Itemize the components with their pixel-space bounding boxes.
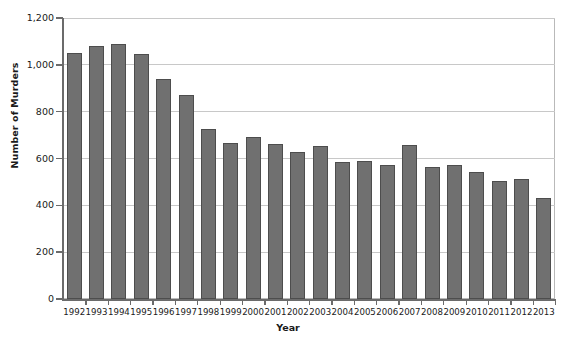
bar (67, 53, 82, 299)
x-axis-tick (555, 300, 556, 305)
x-axis-tick (309, 300, 310, 305)
x-axis-tick (242, 300, 243, 305)
bar (536, 198, 551, 299)
x-axis-tick (264, 300, 265, 305)
bar (156, 79, 171, 299)
x-axis-tick (130, 300, 131, 305)
x-axis-tick (287, 300, 288, 305)
x-axis-tick (331, 300, 332, 305)
x-axis-tick (376, 300, 377, 305)
bar (514, 179, 529, 299)
bar (111, 44, 126, 299)
bar (89, 46, 104, 299)
x-axis-tick (398, 300, 399, 305)
bar-series (0, 0, 576, 341)
bar (290, 152, 305, 299)
bar (335, 162, 350, 299)
x-axis-tick (533, 300, 534, 305)
bar (357, 161, 372, 299)
x-axis-tick (108, 300, 109, 305)
bar (447, 165, 462, 299)
bar (313, 146, 328, 299)
bar (179, 95, 194, 299)
bar (201, 129, 216, 299)
bar (492, 181, 507, 299)
x-axis-tick (443, 300, 444, 305)
bar (425, 167, 440, 299)
x-axis-tick (175, 300, 176, 305)
x-axis-tick (466, 300, 467, 305)
x-axis-tick (152, 300, 153, 305)
x-axis-tick-label: 2013 (529, 307, 559, 317)
x-axis-tick (421, 300, 422, 305)
x-axis-tick (488, 300, 489, 305)
x-axis-tick (85, 300, 86, 305)
bar (469, 172, 484, 299)
x-axis-tick (354, 300, 355, 305)
x-axis-tick (197, 300, 198, 305)
bar (402, 145, 417, 299)
bar (268, 144, 283, 299)
bar (223, 143, 238, 299)
bar-chart: Number of Murders 02004006008001,0001,20… (0, 0, 576, 341)
bar (246, 137, 261, 299)
x-axis-title: Year (0, 322, 576, 333)
x-axis-tick (510, 300, 511, 305)
bar (380, 165, 395, 299)
x-axis-tick (220, 300, 221, 305)
bar (134, 54, 149, 299)
